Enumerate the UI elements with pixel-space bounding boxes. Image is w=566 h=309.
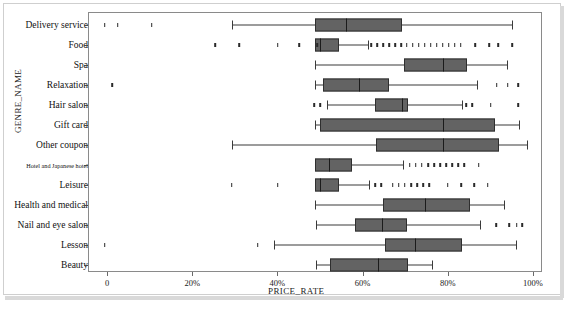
box-iqr xyxy=(320,119,495,132)
x-axis-tick xyxy=(277,272,278,276)
outlier-point xyxy=(406,43,408,47)
outlier-point xyxy=(433,163,435,167)
outlier-point xyxy=(454,43,456,47)
outlier-point xyxy=(430,43,432,47)
category-tick xyxy=(84,105,88,106)
outlier-point xyxy=(412,43,414,47)
outlier-point xyxy=(117,23,119,27)
outlier-point xyxy=(409,163,411,167)
category-label: Delivery service xyxy=(0,20,93,30)
category-tick xyxy=(84,205,88,206)
outlier-point xyxy=(104,23,106,27)
median-line xyxy=(443,59,444,72)
box-iqr xyxy=(315,39,339,52)
outlier-point xyxy=(238,43,240,47)
whisker-low-cap xyxy=(274,241,275,250)
whisker-low-line xyxy=(232,145,376,146)
whisker-low-line xyxy=(327,105,375,106)
outlier-point xyxy=(451,163,453,167)
whisker-high-cap xyxy=(432,261,433,270)
category-label: Lesson xyxy=(0,240,93,250)
category-label: Gift card xyxy=(0,120,93,130)
whisker-high-line xyxy=(495,125,519,126)
category-tick xyxy=(84,165,88,166)
outlier-point xyxy=(447,183,449,187)
category-label: Other coupon xyxy=(0,140,93,150)
median-line xyxy=(425,199,426,212)
whisker-high-cap xyxy=(403,161,404,170)
outlier-point xyxy=(487,183,489,187)
whisker-high-line xyxy=(407,225,480,226)
outlier-point xyxy=(298,43,300,47)
outlier-point xyxy=(422,183,424,187)
category-label: Health and medical xyxy=(0,200,93,210)
outlier-point xyxy=(442,43,444,47)
outlier-point xyxy=(496,83,498,87)
category-tick xyxy=(84,245,88,246)
outlier-point xyxy=(428,183,430,187)
outlier-point xyxy=(380,183,382,187)
whisker-high-cap xyxy=(512,21,513,30)
median-line xyxy=(415,239,416,252)
outlier-point xyxy=(460,183,462,187)
whisker-high-cap xyxy=(368,41,369,50)
median-line xyxy=(402,99,403,112)
image-shadow-right xyxy=(560,6,564,298)
x-axis-tick-label: 20% xyxy=(184,278,200,288)
outlier-point xyxy=(257,243,259,247)
outlier-point xyxy=(471,103,473,107)
outlier-point xyxy=(508,223,510,227)
outlier-point xyxy=(460,43,462,47)
whisker-high-cap xyxy=(507,61,508,70)
whisker-high-cap xyxy=(516,241,517,250)
median-line xyxy=(443,139,444,152)
box-iqr xyxy=(323,79,389,92)
outlier-point xyxy=(439,163,441,167)
outlier-point xyxy=(463,163,465,167)
outlier-point xyxy=(517,83,519,87)
category-tick xyxy=(84,265,88,266)
x-axis-tick-label: 80% xyxy=(440,278,456,288)
median-line xyxy=(320,39,321,52)
outlier-point xyxy=(457,163,459,167)
whisker-low-line xyxy=(316,265,330,266)
whisker-high-line xyxy=(389,85,477,86)
whisker-high-line xyxy=(408,105,462,106)
category-label: Hotel and Japanese hotel xyxy=(0,162,93,169)
whisker-low-cap xyxy=(232,141,233,150)
median-line xyxy=(346,19,347,32)
outlier-point xyxy=(398,183,400,187)
image-shadow-bottom xyxy=(5,296,563,300)
whisker-low-cap xyxy=(232,21,233,30)
whisker-high-line xyxy=(462,245,516,246)
category-tick xyxy=(84,225,88,226)
outlier-point xyxy=(392,183,394,187)
x-axis-tick xyxy=(192,272,193,276)
category-tick xyxy=(84,25,88,26)
box-iqr xyxy=(315,179,339,192)
x-axis-tick xyxy=(363,272,364,276)
whisker-low-line xyxy=(315,65,404,66)
outlier-point xyxy=(394,43,396,47)
category-tick xyxy=(84,65,88,66)
outlier-point xyxy=(277,183,279,187)
outlier-point xyxy=(319,103,321,107)
outlier-point xyxy=(488,43,490,47)
whisker-low-cap xyxy=(315,81,316,90)
whisker-high-cap xyxy=(527,141,528,150)
category-tick xyxy=(84,125,88,126)
whisker-low-cap xyxy=(315,121,316,130)
outlier-point xyxy=(415,163,417,167)
outlier-point xyxy=(313,103,315,107)
outlier-point xyxy=(517,103,519,107)
outlier-point xyxy=(478,163,480,167)
outlier-point xyxy=(424,43,426,47)
whisker-high-cap xyxy=(462,101,463,110)
category-label: Food xyxy=(0,40,93,50)
category-tick xyxy=(84,85,88,86)
outlier-point xyxy=(376,43,378,47)
outlier-point xyxy=(436,43,438,47)
outlier-point xyxy=(374,183,376,187)
outlier-point xyxy=(511,43,513,47)
box-iqr xyxy=(315,19,402,32)
